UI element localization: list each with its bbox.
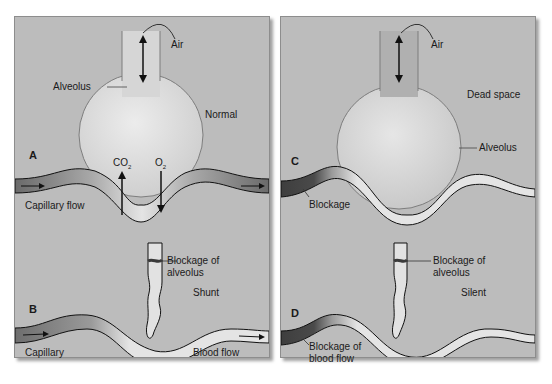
label-o2: O2 [155,157,166,173]
label-state-normal: Normal [205,109,237,121]
label-state-silent: Silent [461,287,486,299]
panel-letter-a: A [29,149,37,161]
panel-left: Alveolus Air Normal A CO2 O2 Capillary f… [14,16,270,358]
blocked-alveolus-silent [392,243,431,338]
label-capillary-flow: Capillary flow [25,200,84,212]
label-state-dead-space: Dead space [467,89,520,101]
label-blockage-alveolus-b-1: Blockage of [167,255,219,267]
label-co2: CO2 [113,157,131,173]
label-capillary: Capillary [25,347,64,359]
panel-letter-c: C [291,155,299,167]
label-alveolus-a: Alveolus [53,81,91,93]
label-blood-flow: Blood flow [193,347,239,359]
label-blockage-c: Blockage [309,199,350,211]
label-air-a: Air [171,39,183,51]
panel-right: Air Dead space Alveolus C Blockage Block… [280,16,536,358]
panel-letter-d: D [291,307,299,319]
label-blockage-blood-2: blood flow [309,353,354,365]
panel-left-illustration [15,17,269,357]
label-air-c: Air [431,39,443,51]
panel-letter-b: B [29,303,37,315]
label-blockage-alveolus-d-2: alveolus [433,267,470,279]
label-blockage-alveolus-b-2: alveolus [167,267,204,279]
label-blockage-blood-1: Blockage of [309,341,361,353]
panel-right-illustration [281,17,535,357]
label-blockage-alveolus-d-1: Blockage of [433,255,485,267]
label-alveolus-c: Alveolus [479,142,517,154]
label-state-shunt: Shunt [193,287,219,299]
